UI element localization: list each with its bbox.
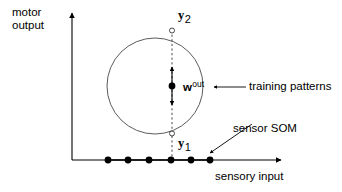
y2-label-subscript: 2 xyxy=(184,13,191,25)
som-node xyxy=(105,157,112,164)
wout-label: wout xyxy=(183,80,204,94)
y1-marker xyxy=(170,131,175,136)
wout-label-superscript: out xyxy=(192,79,204,89)
diagram-canvas xyxy=(0,0,342,192)
som-node xyxy=(125,157,132,164)
motor-output-label-line1: motor xyxy=(12,6,44,19)
y2-marker xyxy=(170,28,175,33)
motor-output-label-line2: output xyxy=(12,19,44,32)
sensory-input-axis-label: sensory input xyxy=(215,170,283,183)
wout-marker xyxy=(169,83,176,90)
y1-label-subscript: 1 xyxy=(184,141,191,153)
y1-label: y1 xyxy=(178,136,191,153)
y2-label: y2 xyxy=(178,8,191,25)
sensorimotor-som-diagram: motor output sensory input training patt… xyxy=(0,0,342,192)
som-node xyxy=(188,157,195,164)
wout-label-base: w xyxy=(183,81,192,93)
sensor-som-callout-label: sensor SOM xyxy=(233,122,297,135)
som-node xyxy=(207,157,214,164)
training-patterns-callout-label: training patterns xyxy=(249,80,331,93)
som-node xyxy=(168,157,175,164)
motor-output-axis-label: motor output xyxy=(12,6,44,32)
som-node xyxy=(146,157,153,164)
